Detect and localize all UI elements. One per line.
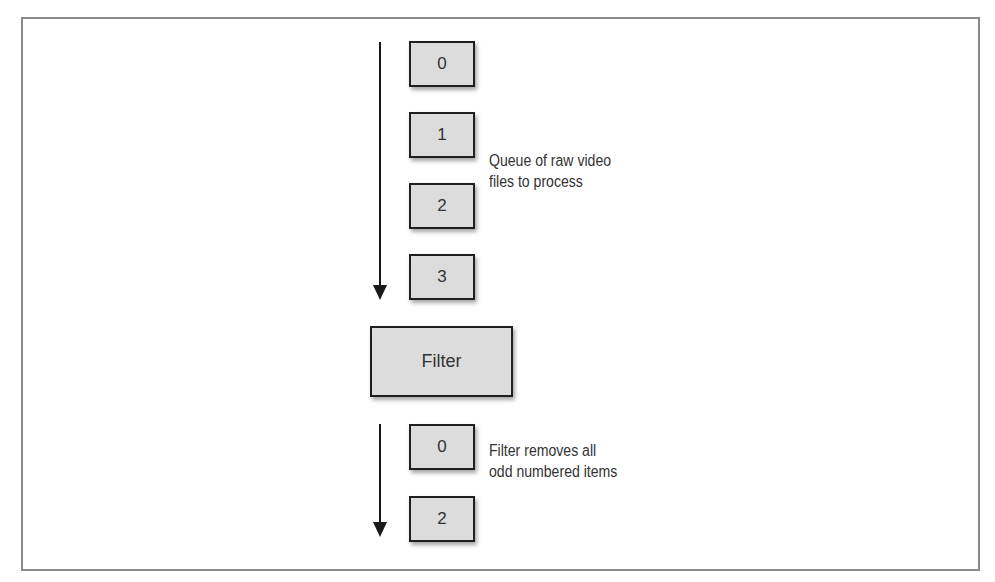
item-label: 1 <box>437 125 446 145</box>
item-label: 2 <box>437 196 446 216</box>
output-queue-item-0: 0 <box>409 424 475 470</box>
input-queue-item-2: 2 <box>409 183 475 229</box>
figure-frame <box>21 17 980 571</box>
input-queue-label-line1: Queue of raw video <box>489 150 611 171</box>
output-queue-label: Filter removes all odd numbered items <box>489 440 617 482</box>
output-queue-label-line1: Filter removes all <box>489 440 617 461</box>
item-label: 0 <box>437 54 446 74</box>
arrow-head-icon <box>373 522 387 537</box>
input-queue-item-3: 3 <box>409 254 475 300</box>
output-queue-label-line2: odd numbered items <box>489 461 617 482</box>
item-label: 0 <box>437 437 446 457</box>
arrow-head-icon <box>373 285 387 300</box>
input-queue-item-0: 0 <box>409 41 475 87</box>
output-queue-item-1: 2 <box>409 496 475 542</box>
filter-box: Filter <box>370 326 513 397</box>
input-queue-label: Queue of raw video files to process <box>489 150 611 192</box>
item-label: 3 <box>437 267 446 287</box>
input-queue-label-line2: files to process <box>489 171 611 192</box>
item-label: 2 <box>437 509 446 529</box>
input-queue-item-1: 1 <box>409 112 475 158</box>
filter-label: Filter <box>422 351 462 372</box>
